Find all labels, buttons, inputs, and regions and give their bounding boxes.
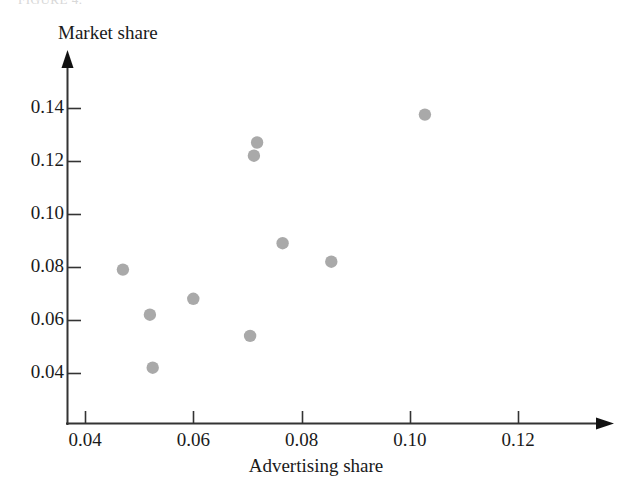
data-point [248, 150, 260, 162]
data-point [419, 108, 431, 120]
data-point [251, 136, 263, 148]
x-tick-label: 0.10 [375, 429, 445, 451]
y-tick-label: 0.14 [0, 96, 64, 118]
plot-canvas [0, 0, 632, 487]
scatter-plot-figure: FIGURE 4. Market share Advertising share… [0, 0, 632, 487]
data-point [244, 330, 256, 342]
y-tick-label: 0.10 [0, 202, 64, 224]
data-point [276, 237, 288, 249]
data-points-group [117, 108, 431, 374]
data-point [187, 293, 199, 305]
x-tick-label: 0.08 [267, 429, 337, 451]
x-axis-arrowhead [596, 418, 614, 430]
x-tick-label: 0.12 [483, 429, 553, 451]
data-point [325, 256, 337, 268]
x-tick-label: 0.06 [158, 429, 228, 451]
data-point [144, 309, 156, 321]
data-point [117, 263, 129, 275]
x-tick-label: 0.04 [50, 429, 120, 451]
y-axis-arrowhead [62, 50, 74, 68]
y-tick-label: 0.08 [0, 255, 64, 277]
y-tick-label: 0.12 [0, 149, 64, 171]
data-point [147, 362, 159, 374]
axes-group [62, 50, 615, 430]
y-tick-label: 0.06 [0, 308, 64, 330]
y-tick-label: 0.04 [0, 361, 64, 383]
tick-marks-group [67, 109, 519, 424]
